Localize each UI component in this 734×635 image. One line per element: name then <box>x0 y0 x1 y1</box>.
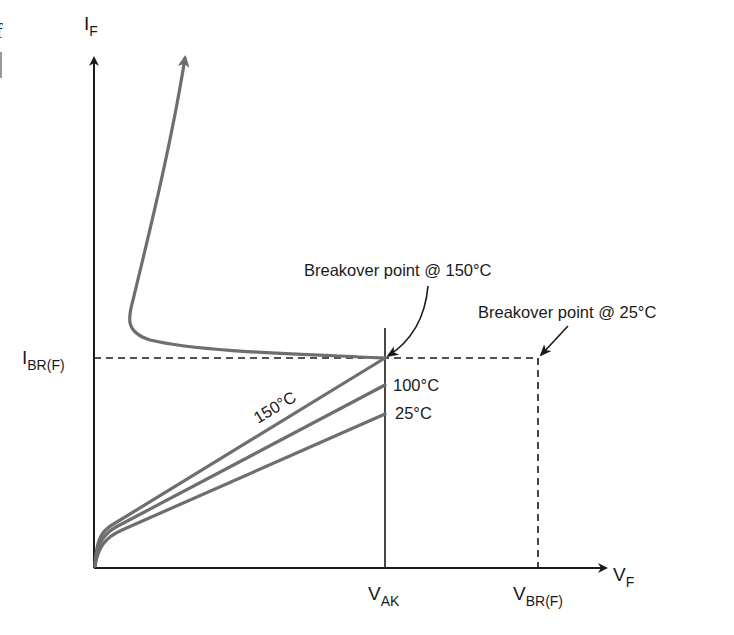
label-25c: 25°C <box>395 404 432 422</box>
arrow-breakover-25 <box>541 326 568 355</box>
curve-100c <box>95 385 385 566</box>
edge-mark <box>0 52 2 78</box>
label-100c: 100°C <box>393 376 439 394</box>
curve-25c <box>95 414 385 566</box>
label-150c: 150°C <box>250 387 299 426</box>
curve-150c-on-state <box>130 58 385 358</box>
vbr-tick-label: VBR(F) <box>513 583 563 609</box>
arrow-breakover-150 <box>388 286 428 356</box>
annotation-breakover-25: Breakover point @ 25°C <box>478 303 656 321</box>
annotation-breakover-150: Breakover point @ 150°C <box>304 261 492 279</box>
vak-tick-label: VAK <box>368 583 400 609</box>
scr-characteristic-diagram: f IF VF IBR(F) VAK VBR(F) 150°C 100°C 25… <box>0 0 734 635</box>
x-axis-label: VF <box>613 564 634 590</box>
ibr-tick-label: IBR(F) <box>22 347 65 373</box>
edge-text-fragment: f <box>0 20 3 42</box>
y-axis-label: IF <box>84 13 98 39</box>
